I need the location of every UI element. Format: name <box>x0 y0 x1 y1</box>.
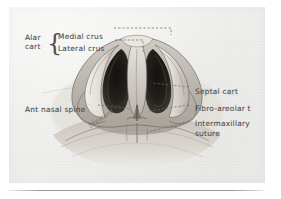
label-medial-crus: Medial crus <box>58 32 103 41</box>
label-septal-cart: Septal cart <box>195 87 238 96</box>
label-lateral-crus: Lateral crus <box>58 44 105 53</box>
label-ant-nasal-spine: Ant nasal spine <box>25 105 86 114</box>
brace-alar-cart: { <box>47 29 57 57</box>
label-intermaxillary-suture: Intermaxillary suture <box>195 119 250 138</box>
bottom-separator-rule <box>9 190 265 191</box>
leader-medial-crus <box>114 28 171 35</box>
scanned-figure-panel: Alar cart { Medial crus Lateral crus Ant… <box>9 7 265 183</box>
label-fibro-areolar-tissue: Fibro-areolar t <box>195 104 251 113</box>
label-alar-cart: Alar cart <box>25 33 41 52</box>
figure-page: Alar cart { Medial crus Lateral crus Ant… <box>0 0 281 199</box>
